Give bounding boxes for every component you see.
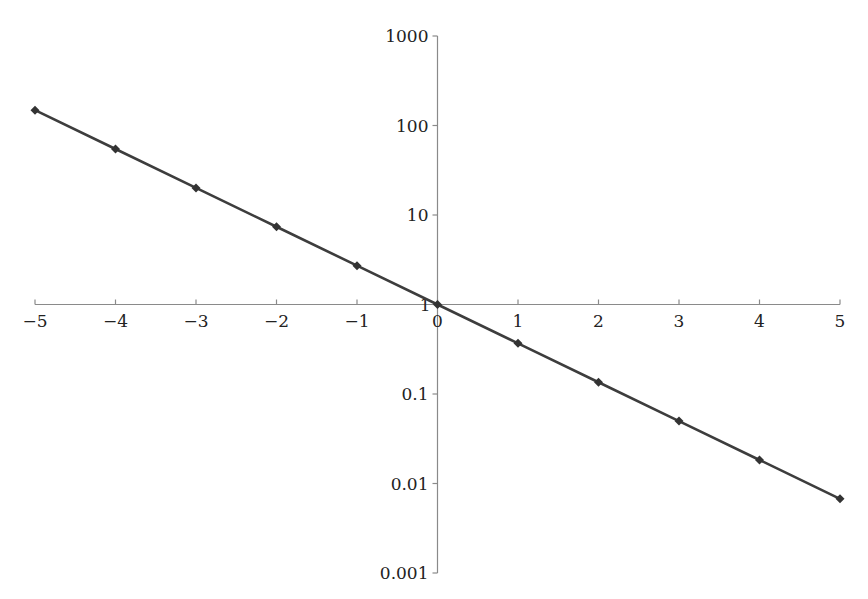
y-tick-label: 10 [407, 205, 429, 225]
diamond-marker [353, 261, 362, 270]
x-tick-label: 3 [674, 311, 685, 331]
diamond-marker [31, 106, 40, 115]
diamond-marker [514, 339, 523, 348]
diamond-marker [272, 222, 281, 231]
y-tick-label: 0.1 [401, 384, 428, 404]
diamond-marker [594, 378, 603, 387]
x-tick-label: 2 [593, 311, 604, 331]
x-tick-label: −3 [183, 311, 208, 331]
y-tick-label: 100 [396, 116, 428, 136]
diamond-marker [192, 183, 201, 192]
diamond-marker [111, 145, 120, 154]
diamond-marker [836, 494, 845, 503]
y-tick-label: 1000 [385, 26, 428, 46]
x-tick-label: −2 [264, 311, 289, 331]
x-tick-label: 0 [432, 311, 443, 331]
diamond-marker [433, 300, 442, 309]
x-tick-label: −4 [103, 311, 128, 331]
x-tick-label: 4 [754, 311, 765, 331]
x-tick-label: 5 [835, 311, 846, 331]
diamond-marker [755, 455, 764, 464]
x-tick-label: −1 [344, 311, 369, 331]
diamond-marker [675, 417, 684, 426]
y-tick-label: 0.01 [391, 474, 429, 494]
x-tick-label: 1 [513, 311, 524, 331]
chart: −5−4−3−2−10123450.0010.010.11101001000 [0, 0, 868, 599]
y-tick-label: 0.001 [380, 563, 429, 583]
x-tick-label: −5 [22, 311, 47, 331]
